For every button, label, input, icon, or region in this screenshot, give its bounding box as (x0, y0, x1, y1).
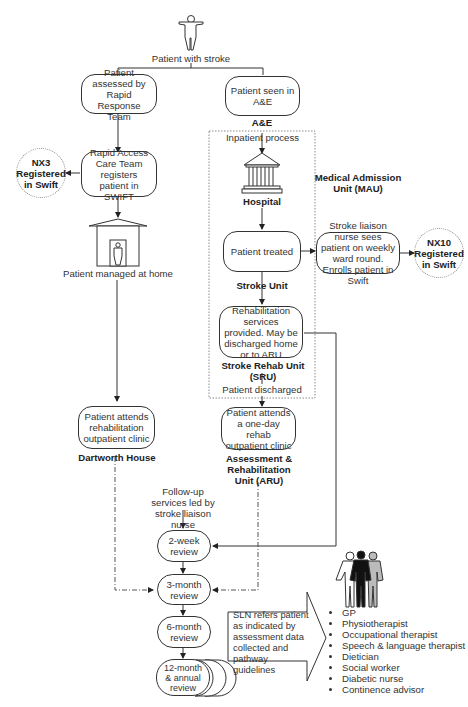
follow-up-label: Follow-up services led by stroke liaison… (146, 486, 220, 530)
inpatient-label: Inpatient process (220, 132, 305, 143)
review-6-month: 6-month review (157, 616, 211, 648)
role-item: GP (342, 607, 465, 618)
role-item: Social worker (342, 662, 465, 673)
nx3-badge: NX3 Registered in Swift (16, 148, 66, 198)
hospital-icon (242, 153, 282, 193)
ae-label: A&E (237, 117, 287, 128)
referral-text: SLN refers patient as indicated by asses… (233, 609, 311, 675)
team-icon (336, 551, 383, 607)
ae-box: Patient seen in A&E (225, 76, 300, 116)
stroke-unit-label: Stroke Unit (230, 280, 294, 291)
role-item: Speech & language therapist (342, 640, 465, 651)
roles-list: GP Physiotherapist Occupational therapis… (330, 607, 465, 695)
rehab-box: Rehabilitation services provided. May be… (219, 306, 303, 358)
role-item: Occupational therapist (342, 629, 465, 640)
start-label: Patient with stroke (141, 53, 241, 64)
role-item: Diabetic nurse (342, 673, 465, 684)
discharged-label: Patient discharged (220, 384, 304, 395)
house-icon (89, 219, 147, 266)
clinic-location: Dartworth House (72, 452, 162, 463)
review-3-month: 3-month review (157, 574, 211, 605)
review-12-month: 12-month & annual review (156, 659, 210, 696)
review-2-week: 2-week review (157, 530, 211, 562)
sru-label: Stroke Rehab Unit (SRU) (208, 360, 318, 382)
mau-label: Medical Admission Unit (MAU) (313, 172, 403, 194)
role-item: Continence advisor (342, 684, 465, 695)
treated-box: Patient treated (223, 231, 301, 272)
liaison-box: Stroke liaison nurse sees patient on wee… (316, 232, 400, 274)
nx10-badge: NX10 Registered in Swift (414, 228, 464, 278)
aru-box: Patient attends a one-day rehab outpatie… (221, 407, 296, 450)
rapid-access-box: Rapid Access Care Team registers patient… (81, 151, 157, 197)
aru-label: Assessment & Rehabilitation Unit (ARU) (222, 453, 296, 486)
rrt-box: Patient assessed by Rapid Response Team (81, 74, 157, 114)
clinic-box: Patient attends rehabilitation outpatien… (78, 406, 155, 449)
role-item: Dietician (342, 651, 465, 662)
person-icon (179, 16, 203, 51)
home-label: Patient managed at home (62, 268, 174, 279)
hospital-label: Hospital (236, 196, 288, 207)
role-item: Physiotherapist (342, 618, 465, 629)
